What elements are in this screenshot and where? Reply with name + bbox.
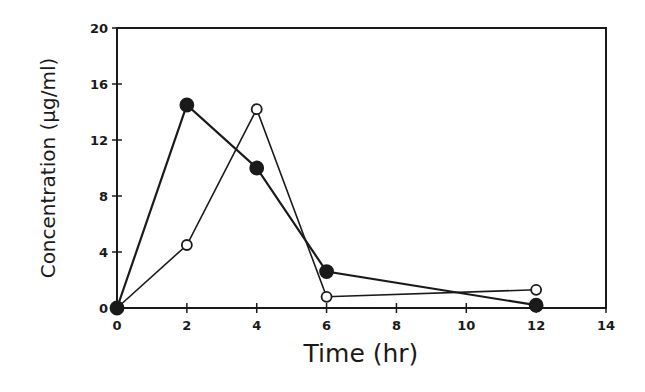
x-tick-label: 0 — [112, 318, 121, 333]
x-tick-label: 2 — [182, 318, 191, 333]
series-layer — [111, 99, 543, 315]
y-tick-label: 20 — [90, 21, 108, 36]
x-tick-label: 6 — [322, 318, 331, 333]
y-tick-label: 8 — [99, 189, 108, 204]
y-tick-label: 12 — [90, 133, 108, 148]
x-tick-label: 8 — [392, 318, 401, 333]
series-filled — [111, 99, 543, 315]
open-circle-marker — [182, 240, 192, 250]
filled-circle-marker — [320, 265, 333, 278]
x-tick-label: 10 — [457, 318, 475, 333]
y-tick-label: 16 — [90, 77, 108, 92]
open-circle-marker — [322, 292, 332, 302]
y-axis-title: Concentration (µg/ml) — [36, 58, 60, 279]
filled-circle-marker — [250, 162, 263, 175]
plot-border — [117, 28, 606, 308]
plot-frame — [117, 28, 606, 308]
x-tick-label: 14 — [597, 318, 615, 333]
open-circle-marker — [531, 285, 541, 295]
open-circle-marker — [252, 104, 262, 114]
filled-circle-marker — [530, 299, 543, 312]
y-tick-label: 0 — [99, 301, 108, 316]
concentration-time-chart: 02468101214 048121620 Time (hr) Concentr… — [0, 0, 645, 392]
x-tick-label: 12 — [527, 318, 545, 333]
x-axis-title: Time (hr) — [303, 339, 419, 368]
y-tick-label: 4 — [99, 245, 108, 260]
filled-circle-marker — [180, 99, 193, 112]
filled-circle-marker — [111, 302, 124, 315]
x-tick-label: 4 — [252, 318, 261, 333]
